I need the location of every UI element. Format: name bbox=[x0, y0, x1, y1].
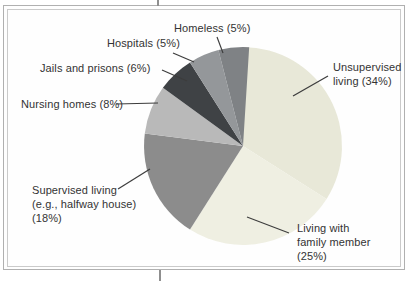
figure-canvas: Unsupervised living (34%) Living with fa… bbox=[0, 0, 412, 281]
slice-label-hospitals: Hospitals (5%) bbox=[107, 36, 180, 50]
leader-line-hospitals bbox=[173, 53, 194, 62]
slice-label-unsupervised-living: Unsupervised living (34%) bbox=[333, 60, 401, 88]
slice-label-homeless: Homeless (5%) bbox=[174, 21, 251, 35]
slice-label-supervised-living: Supervised living (e.g., halfway house) … bbox=[32, 183, 136, 225]
slice-label-living-with-family: Living with family member (25%) bbox=[297, 221, 370, 263]
slice-label-jails-and-prisons: Jails and prisons (6%) bbox=[40, 61, 150, 75]
slice-label-nursing-homes: Nursing homes (8%) bbox=[21, 97, 123, 111]
pie-slices bbox=[144, 47, 342, 245]
